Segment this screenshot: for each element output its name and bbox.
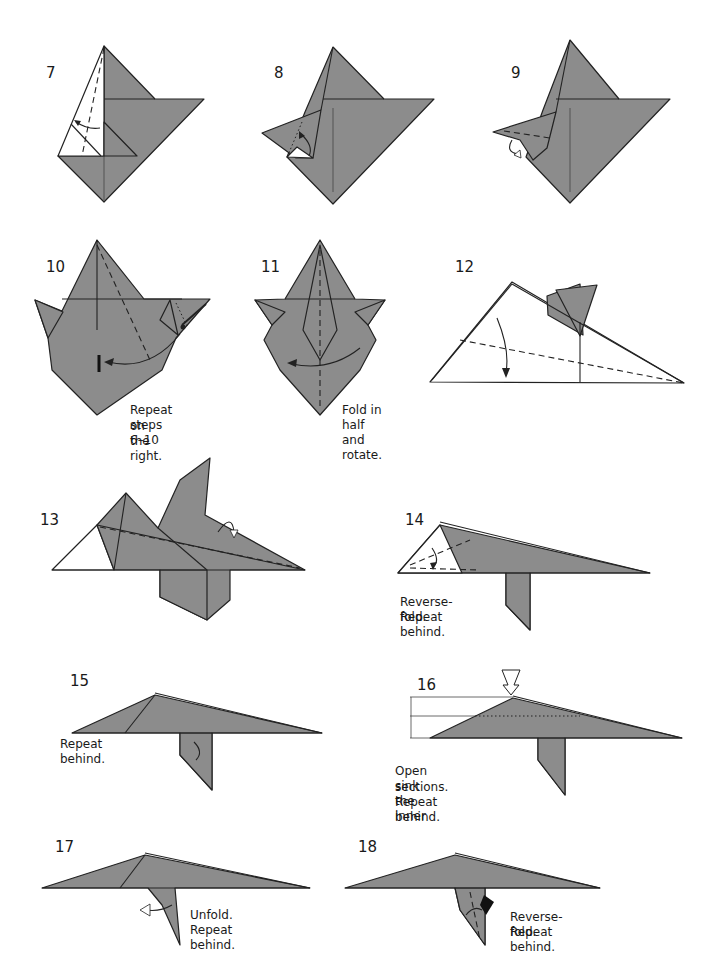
step-18-diagram — [0, 0, 720, 975]
caption-line: Repeat behind. — [510, 925, 555, 955]
